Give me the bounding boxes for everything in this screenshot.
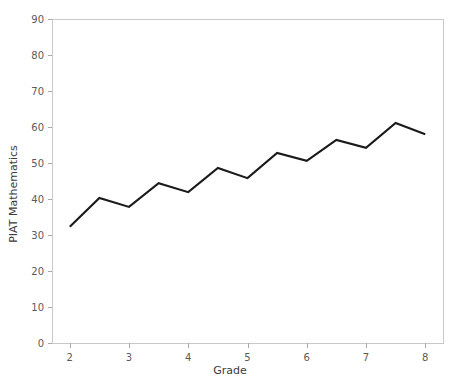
data-series <box>70 123 425 227</box>
y-tick-label: 40 <box>31 194 44 205</box>
x-tick-label: 8 <box>422 352 428 363</box>
y-tick-label: 20 <box>31 266 44 277</box>
x-tick-label: 5 <box>244 352 250 363</box>
x-axis-ticks: 2345678 <box>67 343 429 363</box>
y-tick-label: 70 <box>31 86 44 97</box>
y-tick-label: 60 <box>31 122 44 133</box>
y-tick-label: 30 <box>31 230 44 241</box>
y-tick-label: 90 <box>31 14 44 25</box>
y-tick-label: 50 <box>31 158 44 169</box>
plot-area: 0102030405060708090 2345678 <box>0 0 460 388</box>
chart-container: PIAT Mathematics Grade 01020304050607080… <box>0 0 460 388</box>
plot-frame-rect <box>53 20 444 344</box>
x-tick-label: 6 <box>304 352 310 363</box>
x-tick-label: 3 <box>126 352 132 363</box>
plot-frame <box>53 20 444 344</box>
x-tick-label: 2 <box>67 352 73 363</box>
y-tick-label: 80 <box>31 50 44 61</box>
x-tick-label: 7 <box>363 352 369 363</box>
y-axis-ticks: 0102030405060708090 <box>31 14 52 349</box>
y-tick-label: 0 <box>38 338 44 349</box>
data-line <box>70 123 425 227</box>
x-tick-label: 4 <box>185 352 191 363</box>
y-tick-label: 10 <box>31 302 44 313</box>
